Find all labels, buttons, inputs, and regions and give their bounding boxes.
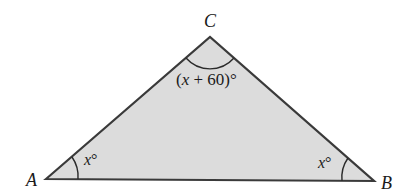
triangle-diagram: C A B (x + 60)° x° x° [0, 0, 416, 196]
angle-label-a: x° [83, 151, 98, 168]
vertex-label-a: A [25, 170, 38, 190]
vertex-label-b: B [381, 173, 392, 193]
angle-label-b: x° [317, 154, 332, 171]
vertex-label-c: C [204, 11, 217, 31]
angle-label-c: (x + 60)° [176, 70, 237, 89]
